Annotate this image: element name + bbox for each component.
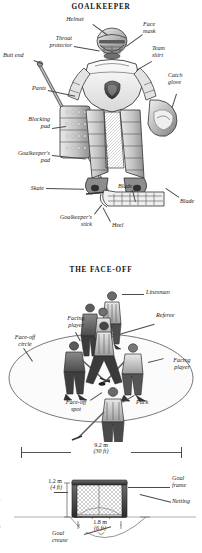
label-team-shirt: Team shirt <box>152 45 186 58</box>
dimension-goal-width-metric: 1.8 m <box>93 519 107 525</box>
label-facing-player-left: Facing player <box>56 315 96 328</box>
section-goal: 1.2 m (4 ft) 1.8 m (6 ft) Goal frame Net… <box>0 470 202 553</box>
label-throat-protector: Throat protector <box>24 35 72 48</box>
label-blocking-pad: Blocking pad <box>4 116 50 129</box>
label-catch-glove: Catch glove <box>168 72 200 85</box>
leader-goal-frame <box>128 487 170 488</box>
label-goalkeepers-pad: Goalkeeper's pad <box>0 150 50 163</box>
leader-linesman <box>122 294 144 295</box>
label-blade-left: Blade <box>118 183 148 190</box>
label-face-off-circle: Face-off circle <box>2 334 48 347</box>
label-goal-frame: Goal frame <box>172 475 202 488</box>
dimension-goal-height: 1.2 m (4 ft) <box>18 478 62 491</box>
label-linesman: Linesman <box>146 289 192 296</box>
label-referee: Referee <box>156 312 196 319</box>
section-goalkeeper: GOALKEEPER <box>0 0 202 250</box>
dimension-circle-imperial: (30 ft) <box>94 448 109 454</box>
label-pants: Pants <box>6 85 46 92</box>
label-netting: Netting <box>172 498 202 505</box>
label-face-mask: Face mask <box>143 21 177 34</box>
section-face-off: THE FACE-OFF <box>0 252 202 470</box>
dimension-tick-right <box>181 447 182 458</box>
label-blade-right: Blade <box>180 198 202 205</box>
edge-fragment-bottom: e <box>0 524 1 530</box>
label-skate: Skate <box>8 185 44 192</box>
label-heel: Heel <box>112 222 136 229</box>
label-puck: Puck <box>136 399 162 406</box>
label-goalkeepers-stick: Goalkeeper's stick <box>42 214 92 227</box>
label-goal-crease: Goal crease <box>52 530 86 543</box>
leader-goal-height <box>54 492 68 493</box>
label-facing-player-right: Facing player <box>162 357 202 370</box>
dimension-circle-metric: 9.2 m <box>94 442 108 448</box>
dimension-circle-diameter: 9.2 m (30 ft) <box>71 442 131 455</box>
dimension-goal-height-imperial: (4 ft) <box>50 484 62 490</box>
dimension-tick-left <box>21 447 22 458</box>
dimension-goal-height-metric: 1.2 m <box>48 478 62 484</box>
diagram-page: GOALKEEPER <box>0 0 202 553</box>
label-butt-end: Butt end <box>3 52 43 59</box>
label-face-off-spot: Face-off spot <box>54 399 98 412</box>
label-helmet: Helmet <box>58 16 92 23</box>
